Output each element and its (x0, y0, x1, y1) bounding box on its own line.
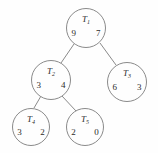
tree-edge-n1-n3 (100, 43, 116, 65)
tree-edge-n1-n2 (61, 44, 74, 63)
tree-node-label-n1: T1 (67, 15, 105, 25)
tree-node-label-n3: T3 (108, 69, 146, 79)
tree-node-values-n3: 63 (113, 83, 142, 92)
tree-node-left-value-n3: 6 (113, 83, 118, 92)
tree-node-label-n5: T5 (67, 115, 103, 125)
tree-node-n3: T363 (107, 62, 147, 102)
tree-node-label-subscript-n5: 5 (86, 118, 89, 124)
tree-node-values-n4: 32 (17, 128, 44, 137)
tree-node-right-value-n3: 3 (137, 83, 142, 92)
tree-node-label-subscript-n1: 1 (87, 19, 90, 25)
tree-node-label-subscript-n3: 3 (128, 73, 131, 79)
tree-node-n2: T234 (31, 60, 71, 100)
tree-node-left-value-n5: 2 (71, 128, 76, 137)
tree-node-right-value-n2: 4 (61, 81, 66, 90)
tree-node-label-n4: T4 (13, 115, 49, 125)
tree-node-n4: T432 (12, 108, 50, 146)
binary-tree-figure: T197T234T363T432T520 (0, 0, 158, 153)
tree-node-left-value-n4: 3 (17, 128, 22, 137)
tree-node-label-subscript-n2: 2 (52, 71, 55, 77)
tree-node-label-n2: T2 (32, 67, 70, 77)
tree-node-left-value-n2: 3 (37, 81, 42, 90)
tree-node-label-subscript-n4: 4 (32, 118, 35, 124)
tree-node-values-n2: 34 (37, 81, 66, 90)
tree-edge-n2-n4 (34, 96, 41, 108)
tree-node-left-value-n1: 9 (72, 29, 77, 38)
tree-node-values-n1: 97 (72, 29, 101, 38)
tree-node-values-n5: 20 (71, 128, 98, 137)
tree-node-n5: T520 (66, 108, 104, 146)
tree-node-right-value-n5: 0 (94, 128, 99, 137)
tree-node-n1: T197 (66, 8, 106, 48)
tree-edge-n2-n5 (62, 96, 76, 111)
tree-node-right-value-n1: 7 (96, 29, 101, 38)
tree-node-right-value-n4: 2 (40, 128, 45, 137)
